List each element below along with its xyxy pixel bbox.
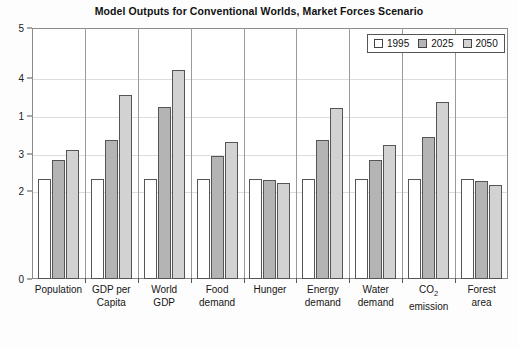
group-separator <box>244 28 245 279</box>
legend-label-2025: 2025 <box>431 38 453 49</box>
bar-group <box>85 28 138 279</box>
x-axis-label: Waterdemand <box>349 283 402 309</box>
x-axis-label-line: area <box>455 296 508 309</box>
x-axis-label-line: Forest <box>455 283 508 296</box>
bar-2050 <box>225 142 238 279</box>
bar-2025 <box>158 107 171 279</box>
bar-2050 <box>489 185 502 279</box>
bar-1995 <box>249 179 262 279</box>
x-axis-label-line: Population <box>32 283 85 296</box>
bar-2050 <box>436 102 449 279</box>
bar-group <box>138 28 191 279</box>
group-separator <box>191 28 192 279</box>
x-axis-label: Energydemand <box>296 283 349 309</box>
bar-group <box>349 28 402 279</box>
x-axis-label-line: GDP per <box>85 283 138 296</box>
bars-layer <box>32 28 508 279</box>
bar-1995 <box>91 179 104 279</box>
group-separator <box>85 28 86 279</box>
y-tick-label: 2 <box>18 186 24 197</box>
x-axis-label-line: Capita <box>85 296 138 309</box>
x-axis-label-line: emission <box>402 300 455 313</box>
chart-figure: Model Outputs for Conventional Worlds, M… <box>0 0 518 347</box>
legend-item-2050: 2050 <box>463 38 498 49</box>
bar-2050 <box>277 183 290 279</box>
bar-group <box>244 28 297 279</box>
bar-1995 <box>302 179 315 279</box>
bar-1995 <box>197 179 210 279</box>
bar-2025 <box>52 160 65 279</box>
x-axis-label-line: demand <box>191 296 244 309</box>
bar-2025 <box>369 160 382 279</box>
bar-2025 <box>263 180 276 279</box>
bar-1995 <box>461 179 474 279</box>
x-axis-label-line: CO2 <box>402 283 455 300</box>
bar-2025 <box>105 140 118 279</box>
x-axis-label: Fooddemand <box>191 283 244 309</box>
y-tick-label: 3 <box>18 148 24 159</box>
x-axis-label: WorldGDP <box>138 283 191 309</box>
group-separator <box>455 28 456 279</box>
x-axis-label: Hunger <box>244 283 297 296</box>
x-axis-label-line: Energy <box>296 283 349 296</box>
x-axis-label-line: Food <box>191 283 244 296</box>
legend-item-1995: 1995 <box>374 38 409 49</box>
white-swatch-icon <box>374 39 383 48</box>
y-tick-label: 5 <box>18 23 24 34</box>
bar-2050 <box>66 150 79 279</box>
bar-group <box>191 28 244 279</box>
x-axis-labels: PopulationGDP perCapitaWorldGDPFooddeman… <box>32 283 508 345</box>
bar-2025 <box>422 137 435 279</box>
chart-legend: 1995 2025 2050 <box>367 34 505 53</box>
group-separator <box>349 28 350 279</box>
bar-2025 <box>475 181 488 279</box>
legend-label-1995: 1995 <box>387 38 409 49</box>
y-tick-label: 1 <box>18 110 24 121</box>
bar-2025 <box>316 140 329 279</box>
group-separator <box>402 28 403 279</box>
bar-1995 <box>355 179 368 279</box>
legend-item-2025: 2025 <box>418 38 453 49</box>
bar-1995 <box>408 179 421 279</box>
bar-group <box>455 28 508 279</box>
bar-1995 <box>144 179 157 279</box>
y-axis: 541320 <box>0 28 32 280</box>
group-separator <box>296 28 297 279</box>
light-gray-swatch-icon <box>463 39 472 48</box>
x-axis-label: Forestarea <box>455 283 508 309</box>
y-tick-label: 0 <box>18 274 24 285</box>
chart-title: Model Outputs for Conventional Worlds, M… <box>0 5 518 17</box>
bar-2025 <box>211 156 224 279</box>
x-axis-label-line: Water <box>349 283 402 296</box>
x-axis-label-line: demand <box>296 296 349 309</box>
subscript-two: 2 <box>434 289 438 298</box>
bar-2050 <box>383 145 396 279</box>
bar-1995 <box>38 179 51 279</box>
x-axis-label-line: World <box>138 283 191 296</box>
x-axis-label-line: demand <box>349 296 402 309</box>
bar-group <box>296 28 349 279</box>
bar-group <box>32 28 85 279</box>
dark-gray-swatch-icon <box>418 39 427 48</box>
x-axis-label: CO2emission <box>402 283 455 313</box>
bar-2050 <box>119 95 132 279</box>
legend-label-2050: 2050 <box>476 38 498 49</box>
bar-group <box>402 28 455 279</box>
group-separator <box>138 28 139 279</box>
bar-2050 <box>172 70 185 279</box>
bar-2050 <box>330 108 343 279</box>
x-axis-label-line: GDP <box>138 296 191 309</box>
x-axis-label-line: Hunger <box>244 283 297 296</box>
y-tick-label: 4 <box>18 73 24 84</box>
x-axis-label: GDP perCapita <box>85 283 138 309</box>
x-axis-label: Population <box>32 283 85 296</box>
